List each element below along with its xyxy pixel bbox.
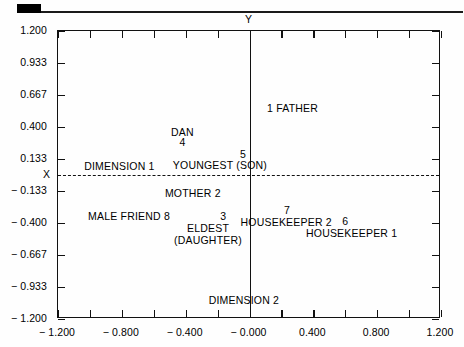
plot-annotation: 4 bbox=[179, 136, 185, 148]
y-tick-right bbox=[432, 191, 439, 192]
plot-annotation: ELDEST bbox=[187, 222, 229, 234]
y-tick-right bbox=[432, 159, 439, 160]
x-tick-top bbox=[441, 31, 442, 38]
x-tick-bottom bbox=[345, 310, 346, 317]
y-tick-right bbox=[432, 287, 439, 288]
x-tick-bottom bbox=[377, 310, 378, 317]
plot-annotation: YOUNGEST (SON) bbox=[173, 159, 267, 171]
x-tick-bottom bbox=[409, 310, 410, 317]
y-tick-left bbox=[58, 95, 65, 96]
x-tick-top bbox=[186, 31, 187, 38]
x-tick-top bbox=[409, 31, 410, 38]
x-tick-bottom bbox=[218, 310, 219, 317]
plot-annotation: (DAUGHTER) bbox=[174, 234, 242, 246]
plot-annotation: DIMENSION 2 bbox=[209, 294, 279, 306]
x-tick-top bbox=[122, 31, 123, 38]
y-tick-right bbox=[432, 95, 439, 96]
y-tick-left bbox=[58, 191, 65, 192]
plot-annotation: DIMENSION 1 bbox=[84, 160, 154, 172]
y-axis-name: Y bbox=[245, 13, 252, 25]
y-tick-right bbox=[432, 255, 439, 256]
y-tick-label: − 0.400 bbox=[0, 216, 47, 228]
x-axis-name: X bbox=[43, 168, 50, 180]
plot-annotation: 3 bbox=[220, 210, 226, 222]
plot-annotation: 7 bbox=[284, 204, 290, 216]
x-tick-bottom bbox=[154, 310, 155, 317]
x-tick-label: 0.400 bbox=[299, 326, 326, 338]
plot-annotation: MALE FRIEND 8 bbox=[88, 210, 170, 222]
x-tick-label: − 1.200 bbox=[39, 326, 75, 338]
y-tick-label: 1.200 bbox=[0, 24, 47, 36]
x-tick-label: − 0.400 bbox=[167, 326, 203, 338]
plot-annotation: 6 bbox=[342, 215, 348, 227]
plot-annotation: 1 FATHER bbox=[267, 102, 318, 114]
x-tick-bottom bbox=[122, 310, 123, 317]
plot-annotation: MOTHER 2 bbox=[165, 187, 221, 199]
horizontal-axis-dashed-line bbox=[58, 175, 439, 176]
x-tick-bottom bbox=[90, 310, 91, 317]
x-tick-top bbox=[345, 31, 346, 38]
x-tick-top bbox=[250, 31, 251, 38]
y-tick-left bbox=[58, 255, 65, 256]
x-tick-label: − 0.800 bbox=[103, 326, 139, 338]
plot-annotation: HOUSEKEEPER 1 bbox=[306, 227, 397, 239]
vertical-axis-line bbox=[250, 31, 251, 317]
y-tick-label: − 1.200 bbox=[0, 312, 47, 324]
x-tick-top bbox=[281, 31, 282, 38]
x-tick-bottom bbox=[313, 310, 314, 317]
y-tick-label: 0.933 bbox=[0, 56, 47, 68]
y-tick-label: 0.400 bbox=[0, 120, 47, 132]
y-tick-left bbox=[58, 31, 65, 32]
x-tick-top bbox=[313, 31, 314, 38]
x-tick-label: − 0.000 bbox=[230, 326, 266, 338]
x-tick-top bbox=[90, 31, 91, 38]
x-tick-top bbox=[218, 31, 219, 38]
y-tick-right bbox=[432, 63, 439, 64]
y-tick-label: − 0.933 bbox=[0, 280, 47, 292]
x-tick-label: 0.800 bbox=[363, 326, 390, 338]
y-tick-left bbox=[58, 223, 65, 224]
y-tick-label: 0.133 bbox=[0, 152, 47, 164]
corner-black-bar bbox=[17, 4, 41, 13]
y-tick-left bbox=[58, 159, 65, 160]
x-tick-label: 1.200 bbox=[427, 326, 454, 338]
y-tick-left bbox=[58, 319, 65, 320]
y-tick-label: − 0.133 bbox=[0, 184, 47, 196]
y-tick-label: − 0.667 bbox=[0, 248, 47, 260]
x-tick-bottom bbox=[186, 310, 187, 317]
y-tick-right bbox=[432, 127, 439, 128]
y-tick-right bbox=[432, 319, 439, 320]
x-tick-bottom bbox=[58, 310, 59, 317]
y-tick-left bbox=[58, 127, 65, 128]
x-tick-top bbox=[377, 31, 378, 38]
x-tick-bottom bbox=[441, 310, 442, 317]
figure-canvas: Y X 1 FATHERDAN45YOUNGEST (SON)DIMENSION… bbox=[0, 0, 464, 347]
y-tick-label: 0.667 bbox=[0, 88, 47, 100]
x-tick-bottom bbox=[281, 310, 282, 317]
plot-frame: 1 FATHERDAN45YOUNGEST (SON)DIMENSION 1MO… bbox=[57, 30, 440, 318]
y-tick-right bbox=[432, 31, 439, 32]
x-tick-top bbox=[154, 31, 155, 38]
y-tick-left bbox=[58, 287, 65, 288]
y-tick-right bbox=[432, 223, 439, 224]
x-tick-bottom bbox=[250, 310, 251, 317]
y-tick-left bbox=[58, 63, 65, 64]
